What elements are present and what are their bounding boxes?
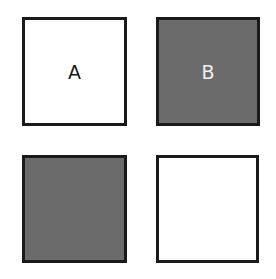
square-a: A — [22, 17, 127, 126]
square-bottom-left — [22, 155, 127, 263]
square-a-label: A — [68, 61, 81, 83]
square-bottom-right — [156, 155, 259, 263]
square-b: B — [156, 17, 260, 126]
square-b-label: B — [201, 61, 214, 83]
